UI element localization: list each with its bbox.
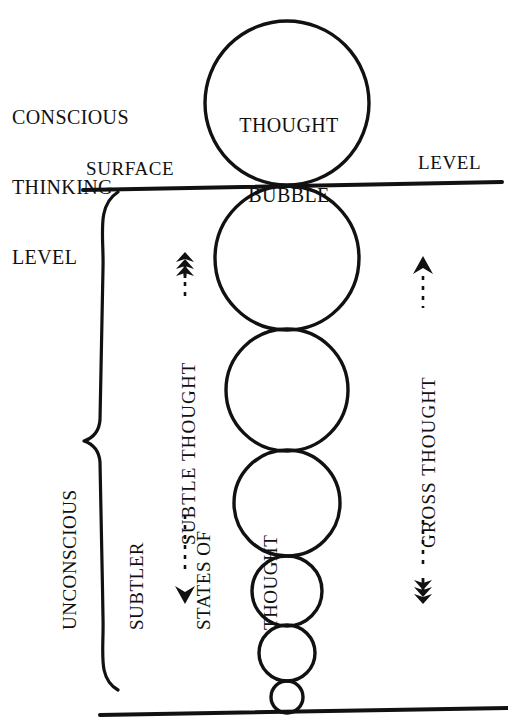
unconscious-label-line-2: SUBTLER [126, 489, 148, 630]
subtle-circle-6 [271, 681, 303, 713]
bottom-baseline [100, 708, 508, 715]
surface-word-label: SURFACE [86, 158, 174, 180]
subtle-triple-chevron-up-icon [176, 252, 194, 278]
conscious-thinking-level-label: CONSCIOUS THINKING LEVEL [12, 60, 129, 315]
subtle-circle-2 [226, 329, 348, 451]
diagram-canvas: CONSCIOUS THINKING LEVEL SURFACE LEVEL T… [0, 0, 508, 726]
subtle-circle-5 [259, 625, 315, 681]
conscious-label-line-1: CONSCIOUS [12, 106, 129, 129]
unconscious-subtler-states-label: UNCONSCIOUS SUBTLER STATES OF THOUGHT [14, 489, 328, 630]
gross-triple-chevron-down-icon [414, 578, 432, 604]
gross-thought-label: GROSS THOUGHT [418, 376, 440, 548]
bubble-caption-line-2: BUBBLE [216, 184, 362, 207]
conscious-label-line-3: LEVEL [12, 246, 129, 269]
level-word-label: LEVEL [418, 152, 481, 174]
unconscious-label-line-1: UNCONSCIOUS [59, 489, 81, 630]
thought-bubble-caption: THOUGHT BUBBLE [216, 68, 362, 254]
subtle-thought-label: SUBTLE THOUGHT [178, 362, 200, 545]
bubble-caption-line-1: THOUGHT [216, 114, 362, 137]
gross-arrow-up-icon [413, 256, 433, 274]
unconscious-label-line-4: THOUGHT [260, 489, 282, 630]
